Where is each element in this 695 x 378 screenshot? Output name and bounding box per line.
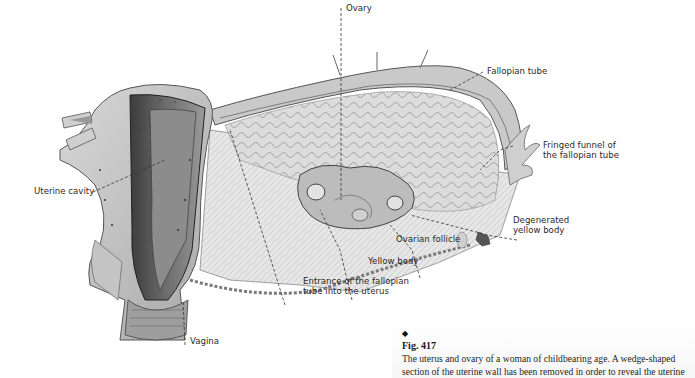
label-yellow-body: Yellow body — [368, 256, 418, 267]
caption-bullet-icon: ◆ — [402, 329, 408, 338]
label-vagina: Vagina — [190, 336, 219, 347]
label-ovarian-follicle: Ovarian follicle — [396, 234, 460, 245]
label-fringed-funnel-line2: the fallopian tube — [543, 150, 619, 161]
label-degenerated-yellow-body-line2: yellow body — [513, 225, 564, 236]
figure-number: Fig. 417 — [402, 340, 436, 351]
label-fallopian-tube: Fallopian tube — [487, 66, 547, 77]
caption-line-1: The uterus and ovary of a woman of child… — [402, 352, 694, 365]
figure-caption: The uterus and ovary of a woman of child… — [402, 352, 694, 378]
caption-line-2: section of the uterine wall has been rem… — [402, 365, 694, 378]
label-tube-entrance-line2: tube into the uterus — [303, 286, 389, 297]
label-uterine-cavity: Uterine cavity — [34, 186, 94, 197]
label-ovary: Ovary — [346, 3, 372, 14]
